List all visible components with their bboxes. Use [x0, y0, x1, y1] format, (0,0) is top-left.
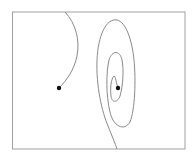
phase-portrait-diagram	[0, 0, 195, 158]
spiral-center-point	[116, 86, 120, 90]
spiral-trajectory	[97, 20, 135, 149]
plot-frame	[13, 12, 186, 149]
left-equilibrium-point	[57, 86, 61, 90]
left-trajectory	[59, 12, 78, 88]
